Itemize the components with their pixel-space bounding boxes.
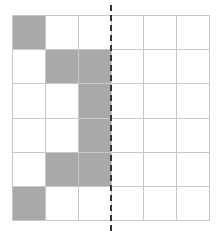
grid-cell (176, 118, 210, 153)
grid-cell (111, 49, 144, 84)
grid-cell-shaded (12, 15, 46, 50)
grid-cell (111, 83, 144, 119)
grid-cell (12, 83, 46, 119)
grid-cell (111, 186, 144, 221)
grid-cell (111, 15, 144, 50)
grid-cell-shaded (45, 49, 79, 84)
grid-cell (111, 118, 144, 153)
grid-cell (45, 186, 79, 221)
grid-cell (78, 15, 112, 50)
grid-cell (143, 15, 177, 50)
grid-cell (12, 118, 46, 153)
grid-cell (143, 186, 177, 221)
grid-cell (176, 152, 210, 187)
grid-cell (176, 15, 210, 50)
grid-cell-shaded (78, 83, 112, 119)
grid-cell (12, 152, 46, 187)
grid-cell (111, 152, 144, 187)
grid-cell (45, 15, 79, 50)
grid-cell (143, 118, 177, 153)
grid-cell (12, 49, 46, 84)
grid-cell (176, 49, 210, 84)
grid-cell (176, 83, 210, 119)
grid-cell (143, 49, 177, 84)
grid-cell-shaded (45, 152, 79, 187)
grid-cell (143, 83, 177, 119)
grid-cell (45, 118, 79, 153)
grid-cell (176, 186, 210, 221)
grid-cell-shaded (78, 49, 112, 84)
grid-cell-shaded (12, 186, 46, 221)
grid-cell (78, 186, 112, 221)
grid-cell-shaded (78, 118, 112, 153)
grid-cell (143, 152, 177, 187)
symmetry-axis-dashed-line (110, 5, 112, 231)
grid-cell (45, 83, 79, 119)
grid-cell-shaded (78, 152, 112, 187)
